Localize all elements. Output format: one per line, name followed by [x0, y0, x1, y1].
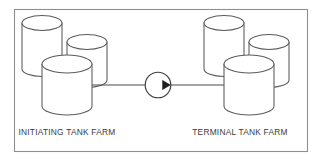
diagram-canvas: INITIATING TANK FARM TERMINAL TANK FARM	[0, 0, 323, 161]
tank-front-top	[224, 55, 274, 73]
tank-front	[42, 55, 92, 115]
terminal-tank-farm-label: TERMINAL TANK FARM	[192, 127, 287, 137]
tank-back-right-top	[249, 35, 289, 50]
tank-front-top	[42, 55, 92, 73]
tank-back-left-top	[22, 16, 62, 31]
tank-front	[224, 55, 274, 115]
tank-farm-diagram: INITIATING TANK FARM TERMINAL TANK FARM	[0, 0, 323, 161]
tank-back-left-top	[204, 16, 244, 31]
tank-back-right-top	[67, 35, 107, 50]
initiating-tank-farm-label: INITIATING TANK FARM	[19, 127, 116, 137]
